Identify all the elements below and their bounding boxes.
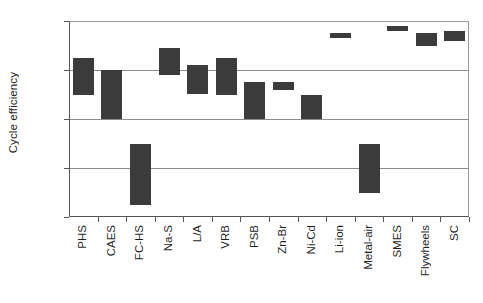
x-tick-mark bbox=[355, 217, 356, 222]
plot-frame bbox=[69, 21, 469, 217]
x-tick-mark bbox=[383, 217, 384, 222]
x-tick-mark bbox=[240, 217, 241, 222]
x-label-na-s: Na-S bbox=[162, 225, 174, 251]
x-label-sc: SC bbox=[448, 225, 460, 241]
x-label-vrb: VRB bbox=[219, 225, 231, 249]
x-tick-mark bbox=[155, 217, 156, 222]
x-tick-mark bbox=[126, 217, 127, 222]
x-tick-mark bbox=[440, 217, 441, 222]
x-label-caes: CAES bbox=[105, 225, 117, 256]
x-tick-mark bbox=[212, 217, 213, 222]
plot-area bbox=[69, 21, 469, 217]
x-label-metal-air: Metal-air bbox=[362, 225, 374, 270]
x-label-fc-hs: FC-HS bbox=[133, 225, 145, 260]
x-label-psb: PSB bbox=[248, 225, 260, 248]
x-tick-mark bbox=[326, 217, 327, 222]
x-label-l-a: L/A bbox=[191, 225, 203, 242]
y-axis-title-label: Cycle efficiency bbox=[7, 72, 19, 153]
x-label-smes: SMES bbox=[391, 225, 403, 258]
x-tick-mark bbox=[412, 217, 413, 222]
y-tick-mark bbox=[64, 217, 69, 218]
x-tick-mark bbox=[98, 217, 99, 222]
x-tick-mark bbox=[469, 217, 470, 222]
x-label-li-ion: Li-ion bbox=[333, 225, 345, 253]
x-label-zn-br: Zn-Br bbox=[276, 225, 288, 254]
x-tick-mark bbox=[183, 217, 184, 222]
x-tick-mark bbox=[269, 217, 270, 222]
x-tick-mark bbox=[298, 217, 299, 222]
x-label-ni-cd: Ni-Cd bbox=[305, 225, 317, 254]
x-label-flywheels: Flywheels bbox=[419, 225, 431, 276]
x-label-phs: PHS bbox=[76, 225, 88, 249]
cycle-efficiency-chart: Cycle efficiency 20%40%60%80%100% PHSCAE… bbox=[0, 0, 483, 303]
y-axis-title: Cycle efficiency bbox=[0, 0, 26, 225]
